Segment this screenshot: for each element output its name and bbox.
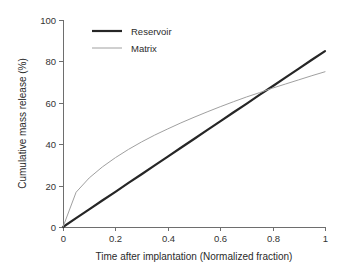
x-axis-tick-label: 0.6 [214, 233, 227, 244]
x-axis-tick-label: 0.2 [109, 233, 122, 244]
legend-label-matrix: Matrix [131, 43, 157, 54]
y-axis-tick-label: 0 [51, 222, 56, 233]
y-axis-title: Cumulative mass release (%) [17, 58, 28, 189]
chart-figure: 02040608010000.20.40.60.81Time after imp… [0, 0, 343, 276]
x-axis-tick-label: 0.4 [162, 233, 175, 244]
x-axis-tick-label: 0.8 [267, 233, 280, 244]
x-axis-tick-label: 1 [323, 233, 328, 244]
y-axis-tick-label: 20 [45, 181, 56, 192]
y-axis-tick-label: 40 [45, 139, 56, 150]
y-axis-tick-label: 80 [45, 56, 56, 67]
y-axis-tick-label: 60 [45, 98, 56, 109]
x-axis-tick-label: 0 [61, 233, 66, 244]
series-line-reservoir [63, 51, 325, 227]
cumulative-mass-release-chart: 02040608010000.20.40.60.81Time after imp… [0, 0, 343, 276]
y-axis-tick-label: 100 [40, 15, 56, 26]
legend-label-reservoir: Reservoir [131, 26, 172, 37]
series-line-matrix [63, 72, 325, 227]
x-axis-title: Time after implantation (Normalized frac… [96, 251, 293, 262]
